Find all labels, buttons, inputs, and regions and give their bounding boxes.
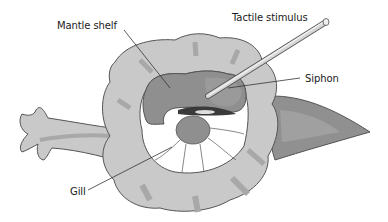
label-tactile-stimulus: Tactile stimulus (232, 12, 308, 24)
label-siphon: Siphon (305, 73, 339, 85)
aplysia-diagram: Mantle shelf Tactile stimulus Siphon Gil… (0, 0, 388, 222)
label-mantle-shelf: Mantle shelf (57, 20, 117, 32)
label-gill: Gill (70, 186, 86, 198)
aplysia-illustration (0, 0, 388, 222)
gill-center (176, 116, 210, 144)
